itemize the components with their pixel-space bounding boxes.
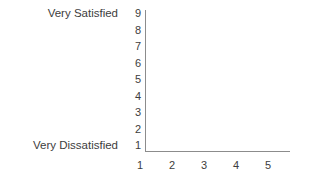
y-tick-label-1: 1 [121,140,141,151]
y-tick-label-4: 4 [121,91,141,102]
x-tick-label-3: 3 [194,160,214,171]
y-tick-label-6: 6 [121,58,141,69]
y-tick-label-9: 9 [121,8,141,19]
y-axis-anchor-label-bottom: Very Dissatisfied [0,139,118,151]
x-tick-label-1: 1 [130,160,150,171]
satisfaction-scale-chart: Very Satisfied Very Dissatisfied 9 8 7 6… [0,0,309,182]
y-tick-label-3: 3 [121,107,141,118]
y-axis-anchor-label-top: Very Satisfied [0,7,118,19]
x-axis-line [145,151,290,152]
x-tick-label-2: 2 [162,160,182,171]
y-tick-label-2: 2 [121,124,141,135]
y-tick-label-8: 8 [121,25,141,36]
y-tick-label-5: 5 [121,74,141,85]
plot-area [146,10,290,151]
y-tick-label-7: 7 [121,41,141,52]
x-tick-label-4: 4 [226,160,246,171]
x-tick-label-5: 5 [258,160,278,171]
